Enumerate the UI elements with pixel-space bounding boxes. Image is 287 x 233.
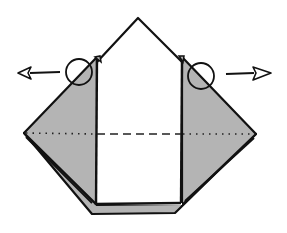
left-flap: [24, 57, 97, 205]
diagram-canvas: [0, 0, 287, 233]
right-flap: [182, 57, 256, 205]
center-right-edge: [181, 58, 182, 203]
right-arrow-icon: [226, 67, 271, 80]
center-bottom-edge: [96, 203, 181, 204]
left-arrow-icon: [18, 67, 60, 79]
center-panel: [97, 18, 182, 205]
center-left-edge: [96, 58, 97, 205]
origami-diagram: [0, 0, 287, 233]
